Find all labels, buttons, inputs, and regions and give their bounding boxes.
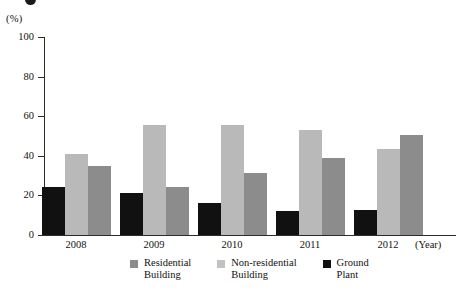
y-axis-tick: [38, 235, 44, 236]
bar-chart: (%) 100806040200 20082009201020112012 (Y…: [0, 0, 466, 293]
bar: [120, 193, 143, 235]
x-axis-label: 2010: [202, 239, 262, 250]
y-axis-tick-label: 60: [0, 111, 34, 121]
legend-swatch: [130, 260, 138, 268]
x-axis-label: 2011: [280, 239, 340, 250]
bar: [299, 130, 322, 235]
bar-group: [354, 37, 423, 235]
y-axis-tick-label: 100: [0, 32, 34, 42]
legend-item: Residential Building: [130, 257, 191, 281]
y-axis-unit-label: (%): [6, 13, 22, 24]
x-axis-label: 2009: [124, 239, 184, 250]
bar: [377, 149, 400, 235]
chart-legend: Residential BuildingNon-residential Buil…: [130, 257, 395, 281]
y-axis-tick-label: 20: [0, 190, 34, 200]
y-axis-tick-label: 0: [0, 230, 34, 240]
bar: [221, 125, 244, 235]
bar-group: [120, 37, 189, 235]
legend-label: Ground Plant: [337, 257, 369, 281]
bar: [276, 211, 299, 235]
bar: [166, 187, 189, 235]
bar: [354, 210, 377, 235]
legend-label: Residential Building: [144, 257, 191, 281]
cropped-bullet-mark: [25, 0, 36, 5]
legend-swatch: [217, 260, 225, 268]
x-axis-line: [44, 235, 456, 236]
legend-swatch: [323, 260, 331, 268]
bar: [88, 166, 111, 235]
bar: [65, 154, 88, 235]
bar: [198, 203, 221, 235]
bar-group: [42, 37, 111, 235]
bar-group: [276, 37, 345, 235]
bar: [143, 125, 166, 235]
bar: [400, 135, 423, 235]
y-axis-tick-label: 80: [0, 72, 34, 82]
y-axis-tick-label: 40: [0, 151, 34, 161]
legend-label: Non-residential Building: [231, 257, 296, 281]
bar: [244, 173, 267, 235]
legend-item: Ground Plant: [323, 257, 369, 281]
bar: [322, 158, 345, 235]
x-axis-unit-label: (Year): [415, 239, 441, 250]
legend-item: Non-residential Building: [217, 257, 296, 281]
x-axis-label: 2008: [46, 239, 106, 250]
bar: [42, 187, 65, 235]
x-axis-label: 2012: [358, 239, 418, 250]
bar-group: [198, 37, 267, 235]
